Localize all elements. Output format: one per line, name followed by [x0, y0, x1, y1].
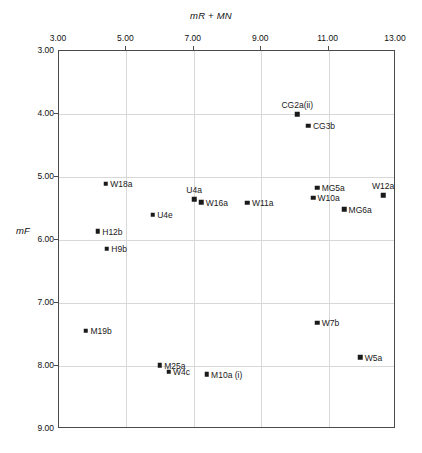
y-tick-label: 4.00 — [14, 108, 54, 118]
x-tick-label: 11.00 — [317, 33, 338, 43]
data-point-marker — [199, 200, 204, 205]
data-point-label: U4a — [186, 185, 202, 195]
caption-remnant — [6, 442, 246, 450]
gridline-horizontal — [59, 303, 394, 304]
data-point-marker — [245, 201, 250, 206]
data-point-label: W16a — [206, 198, 228, 208]
data-point-label: W4c — [173, 367, 190, 377]
data-point-marker — [150, 213, 155, 218]
data-point-marker — [96, 229, 101, 234]
data-point-marker — [381, 193, 386, 198]
data-point-marker — [84, 328, 89, 333]
data-point-label: MG6a — [349, 205, 372, 215]
data-point-label: W10a — [318, 193, 340, 203]
y-tick-label: 8.00 — [14, 360, 54, 370]
y-tick-label: 3.00 — [14, 45, 54, 55]
data-point-label: W18a — [110, 179, 132, 189]
data-point-label: H9b — [111, 244, 127, 254]
data-point-marker — [306, 124, 311, 129]
data-point-marker — [204, 372, 209, 377]
data-point-marker — [105, 247, 110, 252]
y-tick-label: 9.00 — [14, 423, 54, 433]
y-tick-label: 5.00 — [14, 171, 54, 181]
data-point-label: CG3b — [313, 121, 335, 131]
data-point-label: W7b — [322, 318, 339, 328]
x-tick-label: 7.00 — [185, 33, 202, 43]
data-point-label: W11a — [252, 198, 274, 208]
gridline-horizontal — [59, 240, 394, 241]
data-point-label: W5a — [365, 353, 382, 363]
plot-area: CG2a(ii)CG3bW18aMG5aW12aW10aU4aW16aW11aM… — [58, 50, 395, 428]
x-tick-label: 13.00 — [384, 33, 405, 43]
gridline-vertical — [194, 51, 195, 427]
data-point-label: M10a (i) — [211, 370, 242, 380]
scatter-plot-figure: mR + MN mF 3.005.007.009.0011.0013.00 3.… — [0, 0, 422, 453]
data-point-marker — [358, 355, 363, 360]
data-point-label: W12a — [372, 181, 394, 191]
data-point-marker — [311, 196, 316, 201]
gridline-vertical — [126, 51, 127, 427]
y-tick-label: 6.00 — [14, 234, 54, 244]
y-tick-label: 7.00 — [14, 297, 54, 307]
x-tick-label: 3.00 — [50, 33, 67, 43]
gridline-horizontal — [59, 177, 394, 178]
x-axis-title: mR + MN — [0, 10, 422, 21]
data-point-marker — [295, 112, 300, 117]
gridline-horizontal — [59, 114, 394, 115]
data-point-marker — [315, 320, 320, 325]
x-tick-label: 5.00 — [117, 33, 134, 43]
data-point-label: MG5a — [322, 183, 345, 193]
data-point-label: M19b — [90, 326, 111, 336]
data-point-marker — [104, 182, 109, 187]
data-point-marker — [158, 363, 163, 368]
data-point-marker — [192, 197, 197, 202]
data-point-label: CG2a(ii) — [281, 100, 313, 110]
gridline-horizontal — [59, 366, 394, 367]
x-tick-label: 9.00 — [252, 33, 269, 43]
data-point-marker — [342, 207, 347, 212]
data-point-label: H12b — [102, 227, 122, 237]
gridline-vertical — [329, 51, 330, 427]
data-point-marker — [315, 185, 320, 190]
data-point-marker — [166, 369, 171, 374]
gridline-vertical — [261, 51, 262, 427]
data-point-label: U4e — [157, 210, 173, 220]
